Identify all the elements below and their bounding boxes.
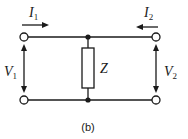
i1-label: I1 (28, 5, 38, 22)
v1-arrowhead-down (21, 86, 27, 93)
v1-label: V1 (4, 64, 17, 81)
terminal-top-left (20, 33, 28, 41)
junction-dot-top (85, 34, 90, 39)
figure-caption: (b) (81, 121, 94, 133)
i2-label: I2 (143, 5, 153, 22)
i2-arrowhead-icon (136, 24, 143, 30)
v2-arrowhead-up (153, 44, 159, 51)
circuit-diagram: I1 I2 V1 V2 Z (b) (0, 0, 188, 139)
v2-label: V2 (164, 64, 177, 81)
terminal-bottom-left (20, 96, 28, 104)
terminal-top-right (152, 33, 160, 41)
terminal-bottom-right (152, 96, 160, 104)
impedance-label: Z (100, 61, 108, 76)
impedance-box (82, 48, 94, 88)
v2-arrowhead-down (153, 86, 159, 93)
i1-arrowhead-icon (42, 22, 49, 28)
junction-dot-bottom (85, 97, 90, 102)
v1-arrowhead-up (21, 44, 27, 51)
